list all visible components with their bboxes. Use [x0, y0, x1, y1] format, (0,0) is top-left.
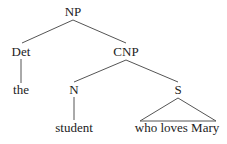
edge-np-det [22, 20, 73, 43]
triangle-s [140, 98, 216, 121]
edge-cnp-n [74, 60, 126, 82]
edge-cnp-s [126, 60, 178, 82]
syntax-tree-diagram: NP Det CNP the N S student who loves Mar… [0, 0, 227, 144]
node-det: Det [12, 44, 31, 59]
leaf-student: student [55, 120, 93, 135]
node-s: S [174, 82, 181, 97]
node-n: N [69, 82, 79, 97]
tree-svg: NP Det CNP the N S student who loves Mar… [0, 0, 227, 144]
leaf-who-loves-mary: who loves Mary [135, 120, 220, 135]
node-np: NP [65, 4, 82, 19]
edge-np-cnp [73, 20, 126, 43]
leaf-the: the [13, 82, 29, 97]
node-cnp: CNP [113, 44, 138, 59]
